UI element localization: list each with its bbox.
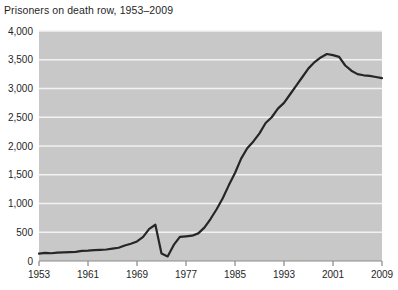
y-axis-tick-label: 3,500 [8,54,33,65]
x-axis-tick-label: 1985 [224,269,247,280]
x-axis-tick-label: 1993 [273,269,296,280]
x-axis-tick-label: 1953 [28,269,51,280]
chart-figure: Prisoners on death row, 1953–2009 05001,… [0,0,398,290]
x-axis-tick-labels: 19531961196919771985199320012009 [28,269,394,280]
x-axis-tick-marks [39,261,382,266]
x-axis-tick-label: 2001 [322,269,345,280]
y-axis-tick-label: 1,500 [8,169,33,180]
y-axis-tick-label: 4,000 [8,26,33,37]
y-axis-tick-labels: 05001,0001,5002,0002,5003,0003,5004,000 [8,26,33,267]
y-axis-tick-label: 1,000 [8,198,33,209]
x-axis-tick-label: 2009 [371,269,394,280]
line-chart-plot: 05001,0001,5002,0002,5003,0003,5004,000 … [0,0,398,290]
y-axis-tick-label: 0 [27,256,33,267]
plot-area-container: 05001,0001,5002,0002,5003,0003,5004,000 … [0,0,398,290]
x-axis-tick-label: 1969 [126,269,149,280]
y-axis-tick-label: 2,000 [8,141,33,152]
x-axis-tick-label: 1961 [77,269,100,280]
y-axis-tick-label: 3,000 [8,83,33,94]
y-axis-tick-label: 500 [16,227,33,238]
x-axis-tick-label: 1977 [175,269,198,280]
y-axis-tick-label: 2,500 [8,112,33,123]
